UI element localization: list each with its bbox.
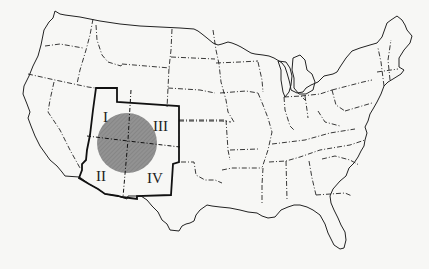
quadrant-label-I: I: [103, 109, 108, 125]
quadrant-label-IV: IV: [147, 170, 163, 186]
state-borders: [28, 19, 398, 204]
us-map: I II III IV: [0, 0, 429, 269]
michigan-peninsula: [292, 55, 315, 94]
quadrant-label-III: III: [153, 118, 168, 134]
quadrant-label-II: II: [96, 168, 106, 184]
us-outline: [23, 11, 412, 249]
